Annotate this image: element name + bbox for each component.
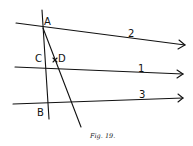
label-line-3: 3	[139, 89, 145, 100]
figure-19-diagram: A C D B 2 1 3 Fig. 19.	[0, 0, 193, 146]
label-line-1: 1	[138, 63, 144, 74]
label-c: C	[35, 53, 42, 64]
label-line-2: 2	[128, 28, 134, 39]
line-2	[16, 23, 185, 45]
line-1	[15, 67, 183, 74]
label-a: A	[44, 16, 51, 27]
figure-caption: Fig. 19.	[89, 132, 115, 140]
line-3	[13, 98, 183, 104]
label-d: D	[58, 53, 66, 64]
label-b: B	[37, 107, 44, 118]
